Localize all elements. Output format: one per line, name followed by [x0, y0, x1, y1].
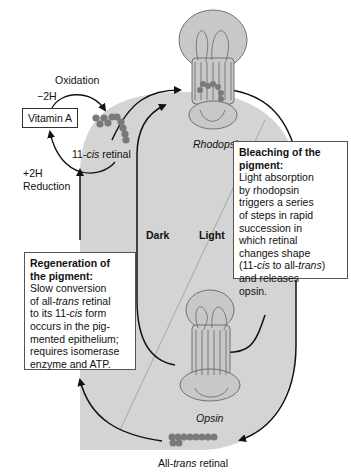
bleaching-line: succession in [239, 222, 342, 235]
light-label: Light [199, 229, 225, 241]
regeneration-line: to its 11-cis form [30, 307, 130, 320]
bleaching-line: opsin. [239, 285, 342, 298]
bleaching-box: Bleaching of the pigment: Light absorpti… [233, 141, 348, 279]
cis-retinal-label: 11-cis retinal [72, 148, 131, 160]
all-trans-retinal-label: All-trans retinal [158, 457, 228, 469]
bleaching-line: of steps in rapid [239, 209, 342, 222]
oxidation-label: Oxidation [55, 74, 99, 86]
regeneration-line: mented epithelium; [30, 333, 130, 346]
plus-2h-label: +2H [23, 167, 43, 179]
regeneration-title: Regeneration of [30, 257, 130, 270]
regeneration-line: Slow conversion [30, 282, 130, 295]
minus-2h-label: −2H [37, 90, 57, 102]
dark-label: Dark [146, 229, 169, 241]
regeneration-title: the pigment: [30, 270, 130, 283]
bleaching-line: which retinal [239, 234, 342, 247]
bleaching-line: changes shape [239, 247, 342, 260]
regeneration-line: of all-trans retinal [30, 295, 130, 308]
reduction-label: Reduction [23, 180, 70, 192]
bleaching-line: triggers a series [239, 196, 342, 209]
bleaching-title: Bleaching of the pigment: [239, 146, 342, 171]
regeneration-line: occurs in the pig- [30, 320, 130, 333]
regeneration-box: Regeneration of the pigment: Slow conver… [24, 252, 136, 370]
bleaching-line: (11-cis to all-trans) [239, 259, 342, 272]
regeneration-line: enzyme and ATP. [30, 358, 130, 371]
bleaching-line: Light absorption [239, 171, 342, 184]
bleaching-line: and releases [239, 272, 342, 285]
regeneration-line: requires isomerase [30, 345, 130, 358]
vitamin-a-box: Vitamin A [22, 108, 78, 128]
opsin-label: Opsin [196, 412, 223, 424]
bleaching-line: by rhodopsin [239, 184, 342, 197]
